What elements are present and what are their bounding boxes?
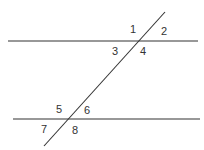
transversal-line xyxy=(44,12,165,146)
angle-label-6: 6 xyxy=(84,104,90,116)
angle-label-7: 7 xyxy=(41,123,47,135)
angle-label-5: 5 xyxy=(56,103,62,115)
angle-label-2: 2 xyxy=(161,25,167,37)
angle-label-8: 8 xyxy=(72,124,78,136)
parallel-lines-diagram: 12345678 xyxy=(0,0,204,150)
angle-label-4: 4 xyxy=(140,45,146,57)
angle-label-1: 1 xyxy=(130,23,136,35)
lines-group xyxy=(8,12,200,146)
angle-label-3: 3 xyxy=(112,45,118,57)
